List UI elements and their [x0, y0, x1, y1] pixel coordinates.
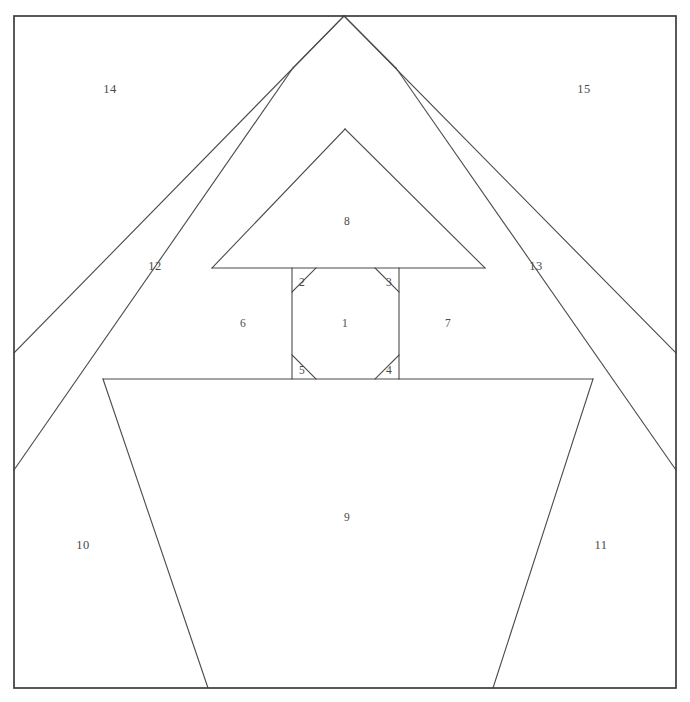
patch-10-lower-left-corner-number: 10	[76, 538, 89, 552]
patch-5-corner-lower-left-number: 5	[299, 364, 305, 376]
patch-7-right-wall-number: 7	[445, 317, 451, 329]
patch-7-right-wall[interactable]	[399, 268, 485, 379]
patch-15-upper-right-sky-number: 15	[577, 82, 590, 96]
patch-1-center-octagon-number: 1	[342, 317, 348, 329]
patch-4-corner-lower-right-number: 4	[386, 364, 392, 376]
patch-11-lower-right-corner-number: 11	[595, 538, 608, 552]
pattern-canvas: 123456789101112131415	[0, 0, 690, 702]
patch-2-corner-upper-left-number: 2	[299, 276, 305, 288]
patch-6-left-wall[interactable]	[212, 268, 292, 379]
patch-6-left-wall-number: 6	[240, 317, 246, 329]
patch-8-inner-gable-number: 8	[344, 215, 350, 227]
patch-14-upper-left-sky-number: 14	[103, 82, 117, 96]
patch-12-left-roof-band-number: 12	[148, 259, 161, 273]
patch-9-house-front-number: 9	[344, 511, 350, 523]
patch-3-corner-upper-right-number: 3	[386, 276, 392, 288]
patch-13-right-roof-band-number: 13	[529, 259, 542, 273]
house-block-diagram: 123456789101112131415	[0, 0, 690, 702]
